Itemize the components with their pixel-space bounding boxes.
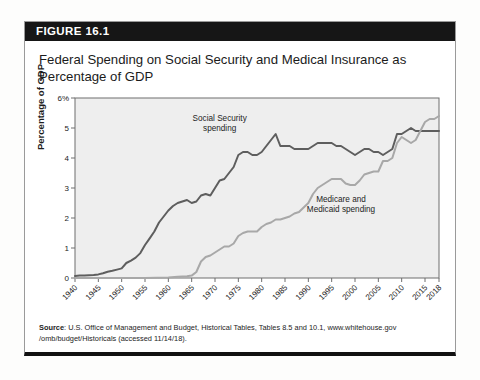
x-tick-label: 1975	[224, 283, 243, 302]
x-tick-label: 1970	[200, 283, 219, 302]
y-tick-label: 4	[65, 154, 70, 163]
annotation-line-1: Medicare and	[316, 195, 366, 204]
annotation-line-2: Medicaid spending	[307, 205, 376, 214]
x-tick-label: 1985	[270, 283, 289, 302]
x-tick-label: 1995	[317, 283, 336, 302]
figure-number-label: FIGURE 16.1	[36, 25, 109, 37]
source-line-1: : U.S. Office of Management and Budget, …	[64, 323, 396, 332]
series-annotation: Medicare andMedicaid spending	[307, 195, 376, 214]
x-tick-label: 1990	[294, 283, 313, 302]
source-line-2: /omb/budget/Historicals (accessed 11/14/…	[39, 334, 187, 343]
y-tick-label: 0	[65, 274, 70, 283]
figure-card: FIGURE 16.1 Federal Spending on Social S…	[24, 21, 456, 356]
figure-page: FIGURE 16.1 Federal Spending on Social S…	[0, 0, 480, 380]
x-tick-label: 1940	[60, 283, 79, 302]
chart-container: Percentage of GDP 0123456%19401945195019…	[37, 94, 443, 316]
x-tick-label: 1950	[107, 283, 126, 302]
source-label: Source	[39, 323, 64, 332]
x-tick-label: 2018	[424, 283, 443, 302]
figure-title: Federal Spending on Social Security and …	[25, 41, 455, 94]
y-tick-label: 2	[65, 214, 70, 223]
x-tick-label: 1955	[130, 283, 149, 302]
y-tick-label: 3	[65, 184, 70, 193]
x-tick-label: 1965	[177, 283, 196, 302]
annotation-line-2: spending	[203, 124, 237, 133]
plot-area	[75, 98, 439, 278]
source-note: Source: U.S. Office of Management and Bu…	[25, 316, 455, 352]
figure-number-bar: FIGURE 16.1	[25, 22, 455, 41]
x-tick-label: 2010	[387, 283, 406, 302]
x-tick-label: 1980	[247, 283, 266, 302]
y-tick-label: 5	[65, 124, 70, 133]
x-tick-label: 2005	[364, 283, 383, 302]
y-tick-label: 1	[65, 244, 70, 253]
y-tick-label: 6%	[57, 94, 69, 103]
y-axis-label: Percentage of GDP	[35, 64, 46, 150]
x-tick-label: 2000	[340, 283, 359, 302]
x-tick-label: 1945	[84, 283, 103, 302]
annotation-line-1: Social Security	[193, 114, 248, 123]
x-tick-label: 1960	[154, 283, 173, 302]
line-chart: 0123456%19401945195019551960196519701975…	[37, 94, 445, 316]
